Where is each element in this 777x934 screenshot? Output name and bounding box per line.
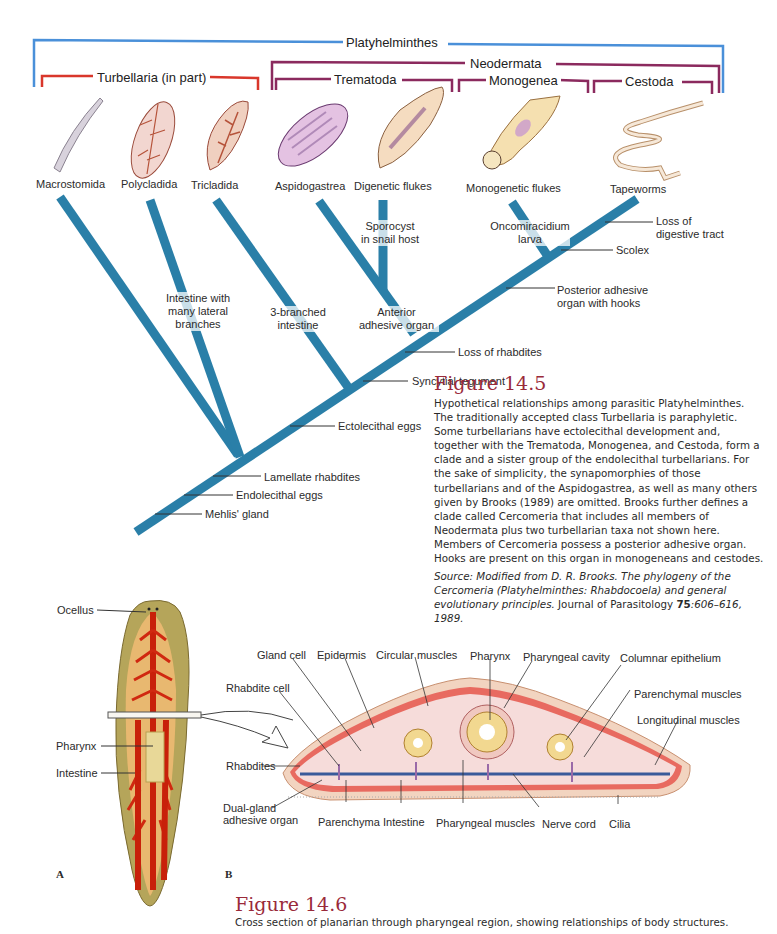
group-label-neodermata: Neodermata: [467, 56, 545, 71]
group-label-turbellaria: Turbellaria (in part): [94, 70, 209, 85]
label-rhabdites: Rhabdites: [226, 760, 276, 773]
label-cilia: Cilia: [609, 818, 630, 831]
taxon-polycladida: Polycladida: [121, 178, 177, 191]
label-intestine-a: Intestine: [56, 767, 98, 780]
taxon-aspidogastrea: Aspidogastrea: [275, 180, 345, 193]
label-ocellus: Ocellus: [57, 604, 94, 617]
group-label-platyhelminthes: Platyhelminthes: [343, 35, 441, 50]
source-volume: 75: [676, 598, 690, 610]
aspidogastrea-illustration: [268, 93, 358, 178]
taxon-tapeworms: Tapeworms: [610, 183, 666, 196]
trunk-label-text: Posterior adhesive organ with hooks: [557, 284, 652, 310]
label-gland-cell: Gland cell: [257, 649, 306, 662]
taxon-tricladida: Tricladida: [191, 179, 238, 192]
polycladida-illustration: [122, 96, 183, 183]
branch-label-text: Intestine with many lateral branches: [158, 292, 238, 331]
figure-14-6-title: Figure 14.6: [235, 893, 347, 915]
tapeworm-illustration: [616, 103, 704, 178]
label-epidermis: Epidermis: [317, 649, 366, 662]
figure-14-6-caption: Cross section of planarian through phary…: [235, 915, 775, 929]
label-intestine-b: Intestine: [383, 816, 425, 829]
label-parenchyma: Parenchyma: [318, 816, 380, 829]
branch-label-text: Oncomiracidium larva: [490, 220, 570, 246]
monogenetic-fluke-illustration: [483, 96, 560, 169]
trunk-label-endolecithal: Endolecithal eggs: [236, 489, 323, 502]
label-pharynx-a: Pharynx: [56, 740, 96, 753]
digenetic-fluke-illustration: [378, 87, 443, 168]
dual-gland-line-1: Dual-gland: [223, 802, 276, 814]
group-label-cestoda: Cestoda: [622, 74, 676, 89]
dual-gland-line-2: adhesive organ: [223, 814, 298, 826]
branch-label-intestine-lateral: Intestine with many lateral branches: [158, 292, 238, 331]
branch-label-text: Anterior adhesive organ: [354, 306, 439, 332]
turbellaria-bracket: [42, 76, 93, 87]
macrostomida-illustration: [54, 98, 103, 172]
cestoda-bracket: [594, 81, 622, 93]
monogenea-bracket: [459, 80, 486, 92]
taxon-digenetic-flukes: Digenetic flukes: [354, 180, 432, 193]
label-parenchymal-muscles: Parenchymal muscles: [634, 688, 742, 701]
figure-14-5-caption: Hypothetical relationships among parasit…: [434, 396, 764, 626]
caption-text: Hypothetical relationships among parasit…: [434, 396, 764, 565]
branch-label-oncomiracidium: Oncomiracidium larva: [490, 220, 570, 246]
taxon-macrostomida: Macrostomida: [36, 178, 105, 191]
branch-label-text: 3-branched intestine: [268, 306, 328, 332]
panel-letter-b: B: [225, 868, 232, 880]
trunk-label-posterior-adhesive: Posterior adhesive organ with hooks: [557, 284, 652, 310]
figure-14-5-title: Figure 14.5: [434, 372, 546, 394]
source-journal: Journal of Parasitology: [558, 598, 676, 610]
caption-source: Source: Modified from D. R. Brooks. The …: [434, 569, 764, 625]
branch-label-3-branched: 3-branched intestine: [268, 306, 328, 332]
label-rhabdite-cell: Rhabdite cell: [226, 682, 290, 695]
branch-label-anterior-adhesive: Anterior adhesive organ: [354, 306, 439, 332]
branch-label-text: Sporocyst in snail host: [360, 220, 420, 246]
label-pharyngeal-cavity: Pharyngeal cavity: [523, 651, 610, 664]
label-circular-muscles: Circular muscles: [376, 649, 457, 662]
trunk-label-mehlis: Mehlis' gland: [205, 508, 269, 521]
trunk-label-text: Loss of digestive tract: [656, 215, 726, 241]
tricladida-illustration: [207, 101, 248, 170]
trematoda-bracket: [276, 79, 332, 90]
branch-label-sporocyst: Sporocyst in snail host: [360, 220, 420, 246]
label-columnar-epithelium: Columnar epithelium: [620, 652, 721, 665]
trunk-label-lamellate: Lamellate rhabdites: [264, 471, 360, 484]
label-dual-gland: Dual-gland adhesive organ: [223, 802, 298, 826]
trunk-label-loss-rhabdites: Loss of rhabdites: [458, 346, 542, 359]
label-pharyngeal-muscles: Pharyngeal muscles: [436, 817, 535, 830]
trunk-label-loss-digestive: Loss of digestive tract: [656, 215, 726, 241]
label-pharynx-b: Pharynx: [470, 650, 510, 663]
panel-letter-a: A: [56, 868, 64, 880]
group-label-trematoda: Trematoda: [331, 72, 399, 87]
label-longitudinal-muscles: Longitudinal muscles: [637, 714, 740, 727]
group-label-monogenea: Monogenea: [486, 73, 561, 88]
trunk-label-scolex: Scolex: [616, 244, 649, 257]
taxon-monogenetic-flukes: Monogenetic flukes: [466, 182, 561, 195]
trunk-label-ectolecithal: Ectolecithal eggs: [338, 420, 421, 433]
label-nerve-cord: Nerve cord: [542, 818, 596, 831]
